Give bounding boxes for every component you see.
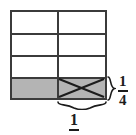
label-one-fraction-bar <box>69 129 79 131</box>
grid-cell-r0-c0 <box>12 12 58 34</box>
grid-cell-r2-c0 <box>12 56 58 78</box>
label-one-fourth-numerator: 1 <box>118 74 128 90</box>
grid-cell-r2-c1 <box>58 56 105 78</box>
label-one-fourth: 1 4 <box>118 74 128 108</box>
fraction-area-diagram: 1 4 1 <box>0 0 136 135</box>
rectangle-grid <box>10 10 107 100</box>
label-one-fourth-denominator: 4 <box>118 93 128 108</box>
grid-cell-r3-c1-shaded-crossed <box>58 78 105 98</box>
grid-vertical-line-1 <box>57 12 59 98</box>
grid-cell-r1-c0 <box>12 34 58 56</box>
label-one-numerator: 1 <box>69 112 79 129</box>
grid-cell-r1-c1 <box>58 34 105 56</box>
right-curly-brace-icon <box>107 76 116 101</box>
label-one: 1 <box>69 112 79 135</box>
bottom-curly-brace-icon <box>57 101 107 110</box>
grid-cell-r3-c0-shaded <box>12 78 58 98</box>
label-one-denominator <box>69 132 79 135</box>
grid-cell-r0-c1 <box>58 12 105 34</box>
